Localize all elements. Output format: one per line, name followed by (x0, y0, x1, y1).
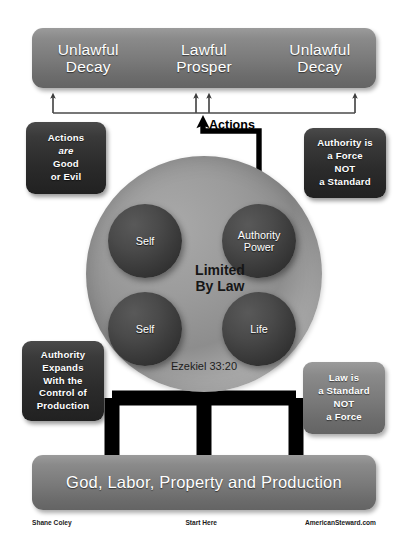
outcome-lawful-middle: Lawful Prosper (144, 41, 263, 76)
outcome-right-line1: Unlawful (289, 41, 350, 58)
note-authority-expands-line4: Control of (39, 387, 87, 400)
circle-center-label-line2: By Law (174, 278, 266, 294)
outcome-middle-line1: Lawful (181, 41, 227, 58)
note-authority-force-line2: a Force (327, 150, 363, 163)
note-authority-expands: Authority Expands With the Control of Pr… (22, 341, 104, 421)
footer-website: AmericanSteward.com (305, 519, 376, 526)
node-authority-power-line1: Authority (238, 229, 281, 241)
note-law-line3: NOT (334, 398, 355, 411)
note-authority-expands-line1: Authority (41, 349, 85, 362)
outcome-unlawful-left: Unlawful Decay (32, 41, 144, 76)
node-self-bottom: Self (108, 292, 182, 366)
node-self-bottom-line1: Self (136, 323, 155, 335)
note-authority-expands-line5: Production (37, 400, 90, 413)
note-law-is-a-standard: Law is a Standard NOT a Force (303, 362, 385, 434)
limited-by-law-circle: Self Authority Power Self Life Limited B… (86, 156, 322, 392)
footer-author: Shane Coley (32, 519, 72, 526)
note-authority-is-a-force: Authority is a Force NOT a Standard (304, 128, 386, 198)
node-self-top-line1: Self (136, 235, 155, 247)
outcome-unlawful-right: Unlawful Decay (264, 41, 376, 76)
note-law-line2: a Standard (318, 385, 370, 398)
foundation-banner: God, Labor, Property and Production (32, 455, 376, 510)
outcome-left-line1: Unlawful (58, 41, 119, 58)
note-actions-line4: or Evil (51, 171, 82, 184)
note-authority-expands-line3: With the (43, 375, 82, 388)
outcome-right-line2: Decay (297, 58, 342, 75)
outcome-left-line2: Decay (66, 58, 111, 75)
outcome-arrow-rail (53, 96, 355, 113)
node-self-top: Self (108, 204, 182, 278)
foundation-connector (112, 394, 296, 455)
footer-start-here: Start Here (185, 519, 217, 526)
outcome-banner: Unlawful Decay Lawful Prosper Unlawful D… (32, 28, 376, 88)
note-law-line4: a Force (326, 411, 362, 424)
node-life: Life (222, 292, 296, 366)
footer: Shane Coley Start Here AmericanSteward.c… (32, 519, 376, 526)
note-law-line1: Law is (329, 372, 360, 385)
note-authority-force-line3: NOT (335, 163, 356, 176)
diagram-canvas: Unlawful Decay Lawful Prosper Unlawful D… (0, 0, 408, 557)
scripture-reference: Ezekiel 33:20 (134, 360, 274, 372)
note-actions-good-or-evil: Actions are Good or Evil (26, 122, 106, 194)
note-authority-expands-line2: Expands (42, 362, 83, 375)
circle-center-label-line1: Limited (174, 262, 266, 278)
outcome-middle-line2: Prosper (176, 58, 232, 75)
circle-center-label: Limited By Law (174, 262, 266, 294)
node-life-line1: Life (250, 323, 267, 335)
node-authority-power-line2: Power (244, 241, 275, 253)
note-authority-force-line1: Authority is (317, 137, 373, 150)
actions-arrow-label: Actions (209, 118, 255, 132)
note-authority-force-line4: a Standard (319, 176, 371, 189)
note-actions-line1: Actions (48, 132, 85, 145)
note-actions-line2: are (58, 145, 73, 158)
note-actions-line3: Good (53, 158, 79, 171)
